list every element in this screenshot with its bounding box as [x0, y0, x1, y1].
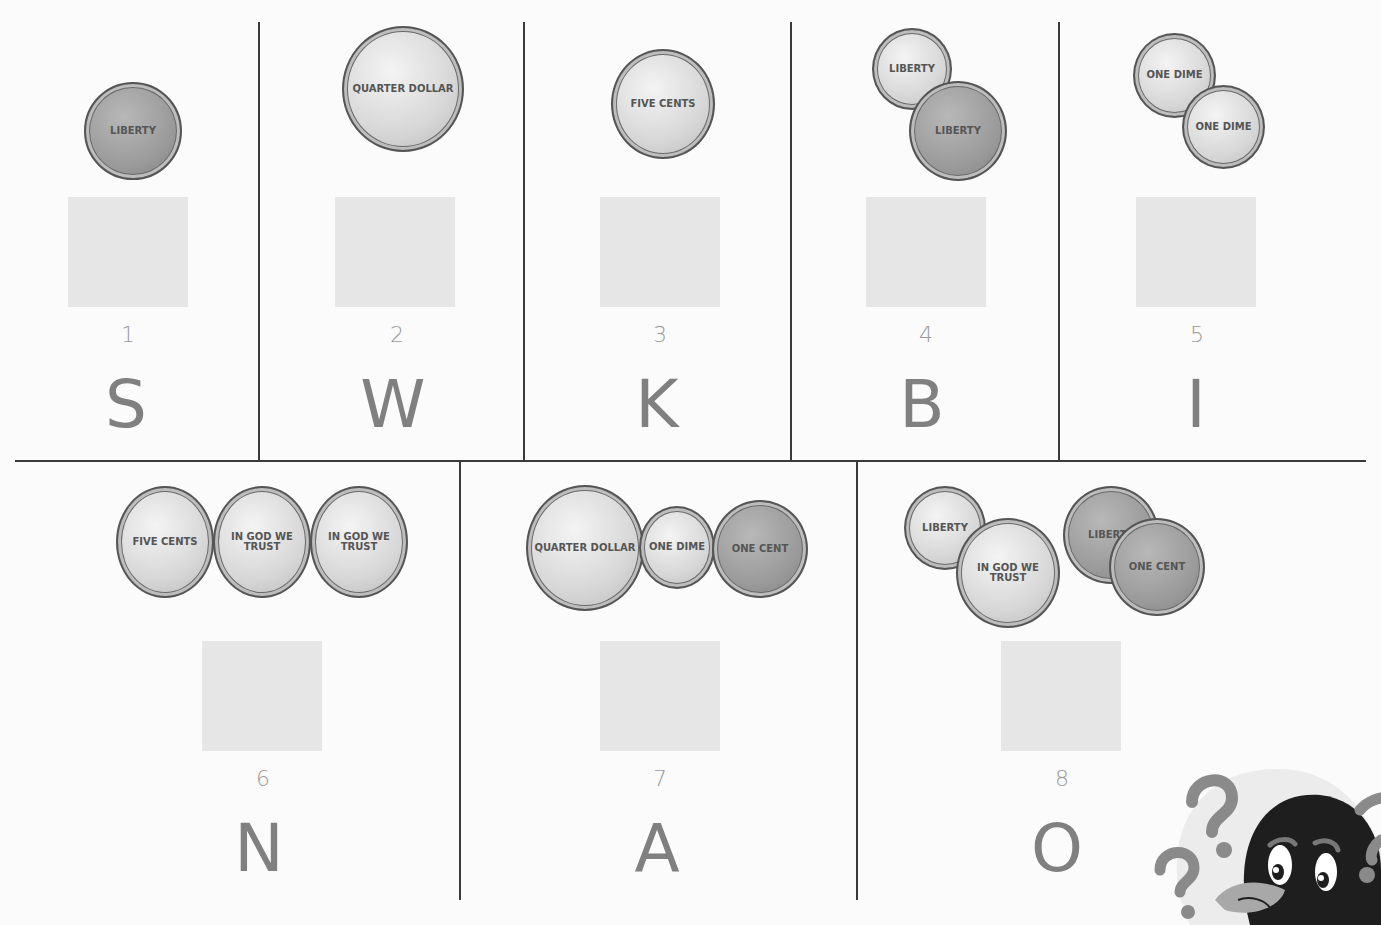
answer-box-2[interactable]	[335, 197, 455, 307]
answer-box-4[interactable]	[866, 197, 986, 307]
coins-group-2: QUARTER DOLLAR	[342, 26, 462, 156]
penguin-mascot-icon	[1120, 740, 1381, 925]
dime-coin-icon: ONE DIME	[1182, 85, 1265, 169]
item-number-8: 8	[1002, 766, 1122, 791]
penny-coin-icon: ONE CENT	[1109, 518, 1205, 616]
coins-group-1: LIBERTY	[84, 82, 184, 182]
dime-coin-icon: ONE DIME	[639, 506, 715, 589]
nickel-coin-icon: FIVE CENTS	[116, 486, 214, 598]
divider-horizontal	[15, 460, 1366, 462]
divider-row2-1	[459, 460, 461, 900]
answer-box-5[interactable]	[1136, 197, 1256, 307]
answer-letter-5: I	[1136, 372, 1256, 438]
coins-group-4: LIBERTY LIBERTY	[860, 26, 1010, 186]
answer-box-7[interactable]	[600, 641, 720, 751]
penny-coin-icon: LIBERTY	[909, 81, 1007, 181]
answer-letter-6: N	[199, 816, 319, 882]
divider-row1-3	[790, 22, 792, 460]
nickel-coin-icon: IN GOD WE TRUST	[310, 486, 408, 598]
coins-group-5: ONE DIME ONE DIME	[1130, 30, 1270, 170]
item-number-3: 3	[600, 322, 720, 347]
coins-group-6: FIVE CENTS IN GOD WE TRUST IN GOD WE TRU…	[116, 486, 416, 601]
divider-row2-2	[856, 460, 858, 900]
item-number-6: 6	[203, 766, 323, 791]
answer-box-8[interactable]	[1001, 641, 1121, 751]
coins-group-8: LIBERTY IN GOD WE TRUST LIBERTY ONE CENT	[900, 484, 1210, 634]
divider-row1-2	[523, 22, 525, 460]
item-number-4: 4	[866, 322, 986, 347]
item-number-2: 2	[337, 322, 457, 347]
answer-letter-1: S	[66, 372, 186, 438]
item-number-5: 5	[1137, 322, 1257, 347]
penny-coin-icon: LIBERTY	[84, 82, 182, 180]
quarter-coin-icon: QUARTER DOLLAR	[342, 26, 464, 152]
quarter-coin-icon: QUARTER DOLLAR	[526, 485, 644, 611]
divider-row1-4	[1058, 22, 1060, 460]
nickel-coin-icon: IN GOD WE TRUST	[956, 518, 1060, 628]
answer-letter-3: K	[597, 372, 717, 438]
coins-group-7: QUARTER DOLLAR ONE DIME ONE CENT	[524, 483, 814, 613]
divider-row1-1	[258, 22, 260, 460]
nickel-coin-icon: IN GOD WE TRUST	[213, 486, 311, 598]
answer-letter-8: O	[997, 816, 1117, 882]
answer-box-3[interactable]	[600, 197, 720, 307]
item-number-1: 1	[68, 322, 188, 347]
penny-coin-icon: ONE CENT	[712, 500, 808, 598]
answer-box-6[interactable]	[202, 641, 322, 751]
answer-box-1[interactable]	[68, 197, 188, 307]
coins-group-3: FIVE CENTS	[608, 49, 718, 159]
answer-letter-4: B	[862, 372, 982, 438]
nickel-coin-icon: FIVE CENTS	[611, 49, 715, 159]
answer-letter-7: A	[597, 816, 717, 882]
item-number-7: 7	[600, 766, 720, 791]
answer-letter-2: W	[333, 372, 453, 438]
